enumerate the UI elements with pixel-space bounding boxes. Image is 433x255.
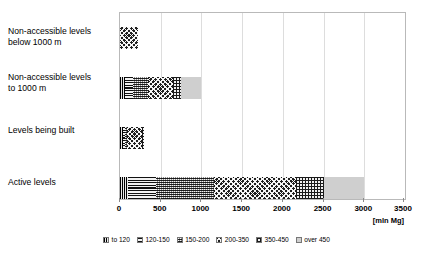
legend-item-350-450[interactable]: 350-450 [256, 236, 289, 243]
gridline-500 [161, 13, 162, 199]
legend-swatch-icon-150-200 [177, 237, 183, 243]
gridline-2000 [283, 13, 284, 199]
bar-row[interactable] [120, 177, 364, 199]
category-label-non-accessible-to-1000m: Non-accessible levels to 1000 m [8, 72, 116, 94]
legend-label-350-450: 350-450 [265, 236, 289, 243]
gridline-2500 [324, 13, 325, 199]
x-tick-label-3000: 3000 [354, 204, 372, 213]
plot-area [119, 12, 406, 200]
category-label-levels-being-built: Levels being built [8, 125, 116, 136]
chart-legend: to 120 120-150 150-200 200-350 350-450 o… [0, 236, 433, 243]
x-tick-500 [160, 198, 161, 202]
x-axis-unit-label: [mln Mg] [373, 216, 404, 225]
legend-item-to-120[interactable]: to 120 [103, 236, 130, 243]
legend-label-120-150: 120-150 [145, 236, 169, 243]
category-label-active-levels: Active levels [8, 177, 116, 188]
bar-segment-over-450 [324, 177, 365, 199]
legend-item-150-200[interactable]: 150-200 [177, 236, 210, 243]
bar-segment-150-200 [156, 177, 215, 199]
bar-segment-200-350 [214, 177, 295, 199]
stacked-bar-chart: Non-accessible levels below 1000 m Non-a… [0, 0, 433, 255]
legend-item-over-450[interactable]: over 450 [296, 236, 330, 243]
legend-swatch-icon-to-120 [103, 237, 109, 243]
bar-row[interactable] [120, 127, 144, 149]
bar-segment-120-150 [125, 77, 133, 99]
x-tick-1500 [241, 198, 242, 202]
bar-row[interactable] [120, 27, 138, 49]
x-tick-3000 [363, 198, 364, 202]
legend-swatch-icon-200-350 [216, 237, 222, 243]
x-axis [119, 198, 404, 203]
bar-row[interactable] [120, 77, 201, 99]
legend-label-200-350: 200-350 [225, 236, 249, 243]
x-tick-label-1000: 1000 [192, 204, 210, 213]
x-tick-label-1500: 1500 [232, 204, 250, 213]
bar-segment-350-450 [296, 177, 324, 199]
category-label-non-accessible-below-1000m: Non-accessible levels below 1000 m [8, 26, 116, 48]
x-tick-0 [119, 198, 120, 202]
bar-segment-200-350 [127, 127, 142, 149]
x-tick-label-0: 0 [117, 204, 121, 213]
bar-segment-to-120 [120, 177, 128, 199]
bar-segment-200-350 [120, 27, 138, 49]
x-tick-label-2500: 2500 [314, 204, 332, 213]
legend-item-120-150[interactable]: 120-150 [137, 236, 170, 243]
bar-segment-350-450 [142, 127, 144, 149]
gridline-1000 [201, 13, 202, 199]
bar-segment-200-350 [148, 77, 172, 99]
legend-item-200-350[interactable]: 200-350 [216, 236, 249, 243]
gridline-3000 [364, 13, 365, 199]
category-axis-labels: Non-accessible levels below 1000 m Non-a… [8, 12, 116, 198]
legend-label-to-120: to 120 [112, 236, 130, 243]
legend-label-150-200: 150-200 [185, 236, 209, 243]
bar-segment-over-450 [181, 77, 201, 99]
legend-swatch-icon-350-450 [256, 237, 262, 243]
x-tick-2500 [323, 198, 324, 202]
legend-swatch-icon-120-150 [137, 237, 143, 243]
x-tick-label-500: 500 [153, 204, 166, 213]
bar-segment-120-150 [128, 177, 156, 199]
x-tick-1000 [200, 198, 201, 202]
bar-segment-150-200 [133, 77, 148, 99]
x-tick-label-2000: 2000 [273, 204, 291, 213]
legend-swatch-icon-over-450 [296, 237, 302, 243]
gridline-1500 [242, 13, 243, 199]
x-tick-label-3500: 3500 [394, 204, 412, 213]
x-tick-3500 [403, 198, 404, 202]
legend-label-over-450: over 450 [304, 236, 330, 243]
bar-segment-350-450 [173, 77, 181, 99]
x-tick-2000 [282, 198, 283, 202]
